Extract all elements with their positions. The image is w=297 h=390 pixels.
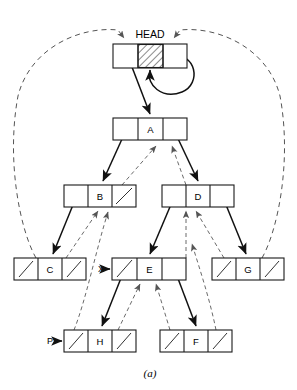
node-g-label: G (244, 264, 251, 275)
thread-f-to-e (156, 284, 170, 330)
external-pointer-p[interactable]: P (47, 336, 62, 346)
threaded-binary-tree-figure: HEAD A B D (0, 0, 297, 390)
thread-c-to-head (13, 30, 124, 258)
thread-g-to-d (196, 211, 224, 258)
pointer-x-label: X (98, 264, 104, 274)
head-node-data-cell-hatched (138, 45, 163, 68)
thread-b-to-a (122, 146, 156, 185)
node-b-label: B (97, 191, 103, 202)
thread-c-to-b (66, 211, 98, 258)
node-c-label: C (47, 264, 54, 275)
pointer-p-label: P (47, 336, 53, 346)
node-e[interactable]: E (112, 258, 186, 280)
thread-h-to-e (118, 284, 140, 330)
node-d-label: D (195, 191, 202, 202)
node-d[interactable]: D (162, 185, 234, 207)
node-head[interactable]: HEAD (113, 28, 187, 68)
node-e-label: E (146, 264, 152, 275)
node-c[interactable]: C (14, 258, 86, 280)
node-a-label: A (147, 124, 154, 135)
node-f-label: F (193, 336, 199, 347)
figure-caption: (a) (144, 367, 157, 380)
node-a[interactable]: A (113, 118, 187, 140)
node-h[interactable]: H (64, 330, 136, 352)
node-b[interactable]: B (64, 185, 136, 207)
thread-f-to-d (192, 244, 216, 330)
diagram-canvas: HEAD A B D (0, 0, 297, 390)
head-node-label: HEAD (135, 28, 165, 40)
node-h-label: H (97, 336, 104, 347)
node-f[interactable]: F (160, 330, 232, 352)
node-g[interactable]: G (212, 258, 284, 280)
